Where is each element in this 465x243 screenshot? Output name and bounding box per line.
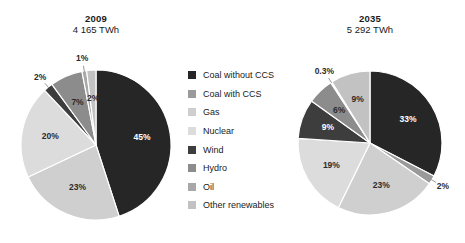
legend-item-label: Oil — [203, 182, 214, 192]
pie-slice-label: 0.3% — [315, 66, 335, 76]
pie-slice-label: 33% — [400, 114, 417, 124]
legend-item-label: Wind — [203, 145, 224, 155]
legend-item[interactable]: Coal with CCS — [188, 85, 300, 104]
pie-slice-label: 7% — [71, 97, 84, 107]
legend-swatch-icon — [188, 183, 196, 191]
panel-title-2009: 2009 — [16, 13, 176, 24]
panel-subtitle-2009: 4 165 TWh — [16, 24, 176, 35]
legend-item[interactable]: Gas — [188, 103, 300, 122]
pie-slice-label: 45% — [133, 132, 150, 142]
label-leader-line — [45, 83, 49, 88]
legend-item[interactable]: Wind — [188, 140, 300, 159]
legend-item-label: Nuclear — [203, 126, 234, 136]
legend-swatch-icon — [188, 164, 196, 172]
legend-swatch-icon — [188, 90, 196, 98]
pie-slice-label: 1% — [76, 53, 89, 63]
legend-item[interactable]: Coal without CCS — [188, 66, 300, 85]
pie-slice-label: 2% — [34, 72, 47, 82]
pie-chart-2035: 33%2%23%19%9%6%0.3%9% — [282, 56, 462, 236]
pie-slice-label: 9% — [352, 94, 365, 104]
pie-slice-label: 19% — [323, 160, 340, 170]
legend-item[interactable]: Oil — [188, 178, 300, 197]
legend-swatch-icon — [188, 108, 196, 116]
legend-item[interactable]: Nuclear — [188, 122, 300, 141]
legend-item[interactable]: Hydro — [188, 159, 300, 178]
legend-item-label: Coal without CCS — [203, 70, 274, 80]
legend: Coal without CCSCoal with CCSGasNuclearW… — [188, 66, 300, 215]
panel-title-2035: 2035 — [290, 13, 450, 24]
pie-chart-2009: 45%23%20%2%7%1%2% — [6, 56, 186, 236]
figure-canvas: 2009 4 165 TWh 2035 5 292 TWh 45%23%20%2… — [0, 0, 465, 243]
pie-slice-label: 9% — [322, 122, 335, 132]
pie-slice-label: 6% — [333, 105, 346, 115]
legend-swatch-icon — [188, 127, 196, 135]
legend-item[interactable]: Other renewables — [188, 196, 300, 215]
legend-item-label: Gas — [203, 107, 220, 117]
panel-subtitle-2035: 5 292 TWh — [290, 24, 450, 35]
legend-swatch-icon — [188, 146, 196, 154]
legend-swatch-icon — [188, 201, 196, 209]
legend-item-label: Coal with CCS — [203, 89, 262, 99]
legend-item-label: Other renewables — [203, 200, 274, 210]
pie-slice-label: 2% — [87, 93, 100, 103]
legend-swatch-icon — [188, 71, 196, 79]
label-leader-line — [329, 78, 332, 83]
pie-slice-label: 23% — [373, 180, 390, 190]
legend-item-label: Hydro — [203, 163, 227, 173]
pie-slice-label: 23% — [69, 182, 86, 192]
pie-slice-label: 20% — [42, 131, 59, 141]
label-leader-line — [431, 180, 436, 183]
pie-slice-label: 2% — [437, 181, 450, 191]
